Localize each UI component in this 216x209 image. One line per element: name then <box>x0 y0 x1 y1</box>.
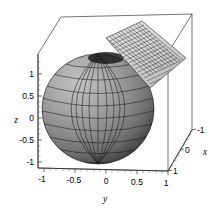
y-tick-label: -1 <box>38 174 46 184</box>
z-tick-label: -1 <box>26 157 34 167</box>
y-axis <box>38 168 168 175</box>
x-axis <box>168 129 196 171</box>
z-tick-labels: 1 0.5 0 -0.5 -1 <box>19 69 34 167</box>
y-tick-label: 0 <box>104 176 109 186</box>
y-axis-label: y <box>102 194 108 204</box>
z-tick-label: 1 <box>29 69 34 79</box>
x-axis-label: x <box>202 147 208 157</box>
x-tick-labels: 1 0 -1 <box>173 125 205 176</box>
y-tick-label: -0.5 <box>67 175 82 185</box>
z-axis-label: z <box>13 115 18 125</box>
figure-container: 1 0.5 0 -0.5 -1 -1 -0.5 0 0.5 1 1 0 -1 z… <box>0 0 216 209</box>
y-tick-labels: -1 -0.5 0 0.5 1 <box>38 174 168 188</box>
z-axis <box>38 54 42 168</box>
x-tick-label: 1 <box>173 166 178 176</box>
y-tick-label: 1 <box>164 178 169 188</box>
y-tick-label: 0.5 <box>131 177 143 187</box>
z-tick-label: 0.5 <box>22 91 34 101</box>
x-tick-label: 0 <box>185 145 190 155</box>
x-tick-label: -1 <box>197 125 205 135</box>
z-tick-label: 0 <box>29 113 34 123</box>
z-tick-label: -0.5 <box>19 135 34 145</box>
3d-plot: 1 0.5 0 -0.5 -1 -1 -0.5 0 0.5 1 1 0 -1 z… <box>0 0 216 209</box>
